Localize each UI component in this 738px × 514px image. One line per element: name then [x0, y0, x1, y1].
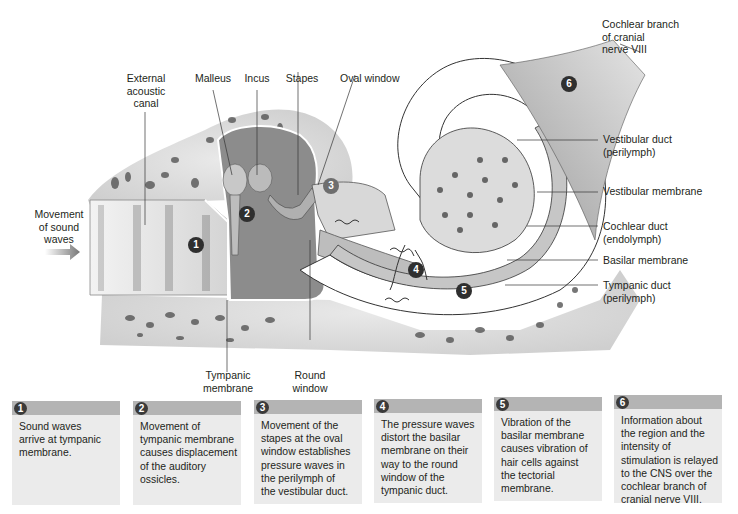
label-stapes: Stapes	[282, 72, 322, 85]
label-tympanic-duct: Tympanic duct (perilymph)	[603, 279, 671, 304]
malleus	[223, 164, 247, 196]
step-box-5: 5 Vibration of the basilar membrane caus…	[494, 397, 602, 501]
label-movement-of-sound-waves: Movement of sound waves	[34, 208, 84, 246]
marker-5: 5	[456, 283, 472, 299]
step-description: Information about the region and the int…	[614, 409, 722, 506]
step-box-2: 2 Movement of tympanic membrane causes d…	[133, 401, 241, 505]
marker-4: 4	[408, 262, 424, 278]
step-box-6: 6 Information about the region and the i…	[614, 395, 722, 503]
step-description: Vibration of the basilar membrane causes…	[494, 411, 602, 495]
step-number-badge: 3	[256, 401, 269, 414]
label-tympanic-membrane: Tympanic membrane	[202, 369, 254, 394]
step-number-badge: 4	[376, 400, 389, 413]
incus	[248, 164, 272, 192]
step-description: Movement of the stapes at the oval windo…	[254, 414, 362, 498]
step-header: 6	[614, 395, 722, 409]
label-external-acoustic-canal: External acoustic canal	[120, 72, 172, 110]
step-header: 5	[494, 397, 602, 411]
step-header: 4	[374, 399, 482, 413]
label-cochlear-duct: Cochlear duct (endolymph)	[603, 220, 668, 245]
step-box-1: 1 Sound waves arrive at tympanic membran…	[12, 401, 120, 505]
label-malleus: Malleus	[189, 72, 237, 85]
step-header: 3	[254, 400, 362, 414]
label-incus: Incus	[240, 72, 274, 85]
marker-6: 6	[561, 76, 577, 92]
step-header: 1	[12, 401, 120, 415]
step-description: The pressure waves distort the basilar m…	[374, 413, 482, 497]
step-box-4: 4 The pressure waves distort the basilar…	[374, 399, 482, 503]
sound-direction-arrow	[45, 244, 80, 260]
marker-2: 2	[239, 206, 255, 222]
label-round-window: Round window	[290, 369, 330, 394]
step-description: Movement of tympanic membrane causes dis…	[133, 415, 241, 486]
label-oval-window: Oval window	[340, 72, 400, 85]
step-box-3: 3 Movement of the stapes at the oval win…	[254, 400, 362, 504]
label-vestibular-duct: Vestibular duct (perilymph)	[603, 133, 672, 158]
step-number-badge: 5	[496, 398, 509, 411]
step-description: Sound waves arrive at tympanic membrane.	[12, 415, 120, 460]
label-vestibular-membrane: Vestibular membrane	[603, 185, 702, 198]
step-number-badge: 1	[14, 402, 27, 415]
step-header: 2	[133, 401, 241, 415]
label-basilar-membrane: Basilar membrane	[603, 254, 688, 267]
marker-1: 1	[188, 237, 204, 253]
step-number-badge: 6	[616, 396, 629, 409]
step-number-badge: 2	[135, 402, 148, 415]
label-cochlear-branch: Cochlear branch of cranial nerve VIII	[602, 18, 679, 56]
marker-3: 3	[323, 178, 339, 194]
